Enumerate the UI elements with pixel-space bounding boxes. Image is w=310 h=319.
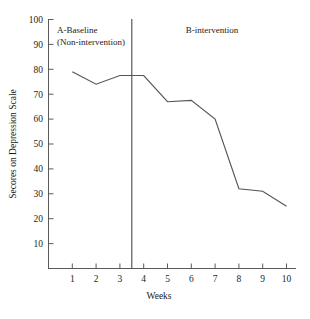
x-tick-label-7: 7 [213,274,218,284]
x-tick-label-10: 10 [282,274,292,284]
x-tick-label-4: 4 [141,274,146,284]
y-tick-label-20: 20 [34,214,44,224]
x-tick-label-6: 6 [189,274,194,284]
phase-b-label: B-intervention [186,25,239,35]
y-tick-label-80: 80 [34,65,44,75]
phase-a-label-line1: A-Baseline [57,25,98,35]
y-tick-label-30: 30 [34,189,44,199]
y-tick-label-50: 50 [34,139,44,149]
y-tick-label-60: 60 [34,114,44,124]
x-tick-label-3: 3 [118,274,123,284]
x-tick-label-1: 1 [70,274,75,284]
y-axis-title: Secores on Depression Scale [8,89,18,198]
phase-a-label-line2: (Non-intervention) [57,37,125,47]
y-tick-label-40: 40 [34,164,44,174]
x-tick-label-9: 9 [260,274,265,284]
y-tick-label-100: 100 [29,15,44,25]
chart-canvas: 100 90 80 70 60 50 40 30 20 10 1 2 3 4 5… [0,0,310,319]
x-axis-title: Weeks [146,291,171,301]
depression-score-line [72,72,286,207]
single-case-design-chart: 100 90 80 70 60 50 40 30 20 10 1 2 3 4 5… [0,0,310,319]
x-tick-label-2: 2 [94,274,99,284]
y-tick-label-70: 70 [34,90,44,100]
y-tick-label-90: 90 [34,40,44,50]
x-tick-label-5: 5 [165,274,170,284]
x-tick-label-8: 8 [237,274,242,284]
y-tick-label-10: 10 [34,239,44,249]
